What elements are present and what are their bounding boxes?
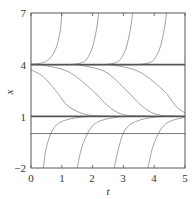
x-tick-0: 0 <box>28 172 34 184</box>
solution-curve-middle-4 <box>111 65 185 113</box>
plot-frame <box>31 13 185 168</box>
solution-curve-upper-4 <box>102 13 167 65</box>
y-tick-neg2: −2 <box>14 162 26 174</box>
solution-curve-lower-4 <box>148 117 185 168</box>
solution-curves <box>31 13 185 168</box>
solution-curve-middle-1 <box>31 70 111 117</box>
x-tick-4: 4 <box>151 172 157 184</box>
solution-curve-upper-2 <box>31 13 99 65</box>
solution-curve-lower-3 <box>114 116 176 168</box>
y-tick-1: 1 <box>21 111 27 123</box>
solution-curve-lower-1 <box>43 116 102 168</box>
x-axis-label: t <box>106 185 110 197</box>
equilibrium-lines <box>31 65 185 134</box>
x-tick-5: 5 <box>182 172 188 184</box>
x-tick-1: 1 <box>59 172 65 184</box>
x-tick-3: 3 <box>120 172 126 184</box>
phase-line-chart: 7 4 1 −2 0 1 2 3 4 5 t x <box>0 0 196 199</box>
axis-ticks <box>31 13 185 168</box>
solution-curve-middle-2 <box>40 65 148 117</box>
y-tick-7: 7 <box>21 7 27 19</box>
solution-curve-lower-2 <box>77 116 139 168</box>
x-tick-2: 2 <box>89 172 95 184</box>
y-tick-4: 4 <box>21 59 27 71</box>
solution-curve-upper-1 <box>31 13 62 64</box>
solution-curve-upper-3 <box>68 13 133 65</box>
y-axis-label: x <box>3 89 15 95</box>
